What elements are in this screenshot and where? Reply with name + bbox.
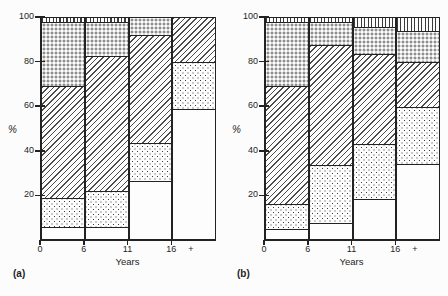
x-tick-label: +	[412, 244, 417, 254]
segment-diag	[266, 86, 308, 204]
y-tick-label: 60	[224, 100, 258, 110]
y-tick-label: 20	[224, 189, 258, 199]
panel-label-a: (a)	[13, 268, 25, 279]
x-tick-label: 6	[81, 244, 86, 254]
y-tick-label: 100	[224, 11, 258, 21]
segment-vlines	[354, 18, 396, 27]
x-tick-label: 6	[305, 244, 310, 254]
y-tick	[35, 61, 45, 63]
segment-dots	[354, 144, 396, 199]
segment-plain	[130, 181, 172, 239]
y-tick	[259, 16, 269, 18]
segment-plain	[266, 229, 308, 239]
y-tick-label: 80	[0, 56, 34, 66]
y-tick-label: 40	[224, 145, 258, 155]
segment-dots	[310, 165, 352, 222]
segment-stipple	[42, 22, 84, 86]
y-tick	[35, 150, 45, 152]
bar-0-6-years	[265, 17, 309, 240]
chart-a: % Years (a) 10080604020061116+	[0, 0, 224, 296]
y-tick	[35, 16, 45, 18]
segment-diag	[130, 35, 172, 143]
x-tick-label: 16	[390, 244, 400, 254]
segment-dots	[86, 191, 128, 227]
x-axis-title: Years	[264, 256, 439, 267]
bar-6-11-years	[85, 17, 129, 240]
bar-6-11-years	[309, 17, 353, 240]
segment-stipple	[397, 31, 439, 62]
segment-plain	[173, 109, 215, 239]
y-tick	[259, 195, 269, 197]
segment-vlines	[397, 18, 439, 31]
segment-stipple	[266, 22, 308, 86]
segment-diag	[42, 86, 84, 198]
segment-plain	[310, 223, 352, 239]
segment-diag	[173, 18, 215, 62]
y-tick	[259, 150, 269, 152]
segment-diag	[310, 45, 352, 165]
bar-16+-years	[396, 17, 440, 240]
x-tick-label: 0	[37, 244, 42, 254]
x-tick-label: 11	[123, 244, 132, 254]
segment-dots	[266, 204, 308, 229]
chart-a-plot	[40, 17, 216, 241]
segment-diag	[397, 62, 439, 106]
segment-stipple	[354, 27, 396, 54]
segment-plain	[86, 227, 128, 239]
bar-11-16-years	[129, 17, 173, 240]
segment-diag	[86, 56, 128, 192]
y-tick-label: 80	[224, 56, 258, 66]
x-tick-label: 0	[261, 244, 266, 254]
segment-stipple	[310, 22, 352, 45]
x-tick-label: 16	[166, 244, 176, 254]
segment-stipple	[130, 18, 172, 35]
bar-11-16-years	[353, 17, 397, 240]
bar-0-6-years	[41, 17, 85, 240]
x-tick-label: 11	[347, 244, 356, 254]
segment-diag	[354, 54, 396, 144]
segment-plain	[397, 164, 439, 239]
figure: % Years (a) 10080604020061116+ % Years (…	[0, 0, 448, 296]
segment-stipple	[86, 22, 128, 56]
y-axis-title: %	[8, 124, 17, 135]
y-tick-label: 20	[0, 189, 34, 199]
segment-dots	[173, 62, 215, 109]
chart-b: % Years (b) 10080604020061116+	[224, 0, 448, 296]
y-tick-label: 100	[0, 11, 34, 21]
y-tick	[259, 105, 269, 107]
bar-16+-years	[172, 17, 216, 240]
x-axis-title: Years	[40, 256, 215, 267]
y-tick-label: 60	[0, 100, 34, 110]
y-tick	[35, 105, 45, 107]
segment-plain	[354, 199, 396, 239]
segment-dots	[42, 198, 84, 227]
segment-dots	[130, 143, 172, 181]
segment-plain	[42, 227, 84, 239]
y-tick	[259, 61, 269, 63]
y-axis-title: %	[232, 124, 241, 135]
y-tick	[35, 195, 45, 197]
panel-label-b: (b)	[237, 268, 250, 279]
y-tick-label: 40	[0, 145, 34, 155]
chart-b-plot	[264, 17, 440, 241]
x-tick-label: +	[188, 244, 193, 254]
segment-dots	[397, 107, 439, 164]
